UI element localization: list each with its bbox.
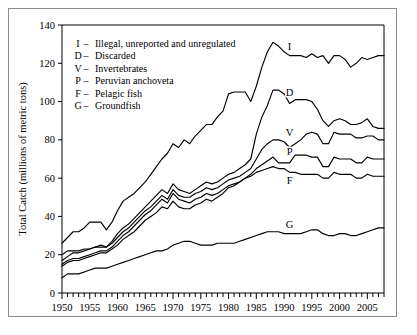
legend-dash-icon: – <box>83 88 90 99</box>
y-axis-tick-label: 140 <box>39 20 55 31</box>
x-axis-tick-label: 1995 <box>301 302 322 313</box>
x-axis-tick-label: 1975 <box>190 302 211 313</box>
x-axis-tick-label: 1970 <box>163 302 184 313</box>
y-axis-tick-label: 120 <box>39 58 55 69</box>
legend-dash-icon: – <box>83 63 90 74</box>
legend-label-f: Pelagic fish <box>95 88 142 99</box>
y-axis-tick-label: 60 <box>45 173 56 184</box>
x-axis-tick-label: 2000 <box>329 302 350 313</box>
series-label-d: D <box>286 87 294 98</box>
legend-key-v: V <box>74 63 82 74</box>
legend-dash-icon: – <box>83 100 90 111</box>
legend-key-i: I <box>76 38 79 49</box>
figure-container: 0204060801001201401950195519601965197019… <box>0 0 417 335</box>
y-axis-title: Total Catch (millions of metric tons) <box>17 82 29 236</box>
series-line-p <box>62 155 384 264</box>
legend-key-d: D <box>74 50 81 61</box>
line-chart: 0204060801001201401950195519601965197019… <box>0 0 417 335</box>
x-axis-tick-label: 1965 <box>135 302 156 313</box>
series-label-g: G <box>286 219 294 230</box>
legend-label-d: Discarded <box>95 50 136 61</box>
legend-key-p: P <box>75 75 81 86</box>
y-axis-tick-label: 0 <box>50 288 55 299</box>
y-axis-tick-label: 80 <box>45 134 56 145</box>
series-label-i: I <box>288 41 292 52</box>
series-line-g <box>62 228 384 278</box>
y-axis-tick-label: 20 <box>45 249 56 260</box>
x-axis-tick-label: 2005 <box>357 302 378 313</box>
x-axis-tick-label: 1955 <box>79 302 100 313</box>
legend-label-p: Peruvian anchoveta <box>95 75 174 86</box>
legend-dash-icon: – <box>83 50 90 61</box>
series-line-f <box>62 167 384 267</box>
legend-label-i: Illegal, unreported and unregulated <box>95 38 236 49</box>
x-axis-tick-label: 1960 <box>107 302 128 313</box>
series-label-p: P <box>287 146 293 157</box>
series-label-v: V <box>286 127 294 138</box>
legend-label-v: Invertebrates <box>95 63 147 74</box>
series-label-f: F <box>287 175 293 186</box>
x-axis-tick-label: 1980 <box>218 302 239 313</box>
x-axis-tick-label: 1985 <box>246 302 267 313</box>
legend-label-g: Groundfish <box>95 100 141 111</box>
y-axis-tick-label: 40 <box>45 211 56 222</box>
y-axis-tick-label: 100 <box>39 96 55 107</box>
legend-key-f: F <box>75 88 81 99</box>
legend-dash-icon: – <box>83 75 90 86</box>
legend-key-g: G <box>74 100 81 111</box>
x-axis-tick-label: 1950 <box>52 302 73 313</box>
x-axis-tick-label: 1990 <box>274 302 295 313</box>
legend-dash-icon: – <box>83 38 90 49</box>
